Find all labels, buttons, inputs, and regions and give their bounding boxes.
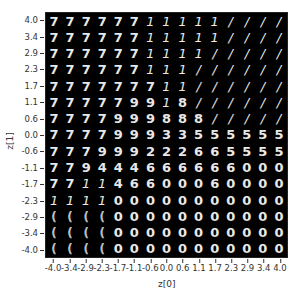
digit-cell: 9	[94, 143, 110, 159]
digit-cell: /	[239, 94, 255, 110]
digit-cell: 0	[239, 224, 255, 240]
y-tick-label: -1.1	[0, 164, 38, 173]
x-tick-label: -4.0	[45, 264, 62, 273]
digit-cell: /	[223, 46, 239, 62]
digit-cell: 4	[110, 176, 126, 192]
digit-cell: 0	[158, 224, 174, 240]
digit-cell: 1	[175, 46, 191, 62]
x-tick-label: -1.7	[110, 264, 127, 273]
digit-cell: 9	[78, 159, 94, 175]
digit-cell: 0	[255, 192, 271, 208]
digit-cell: /	[255, 94, 271, 110]
digit-cell: 0	[110, 224, 126, 240]
digit-cell: 7	[62, 127, 78, 143]
digit-cell: 7	[126, 62, 142, 78]
digit-cell: 0	[158, 176, 174, 192]
digit-cell: 9	[110, 127, 126, 143]
digit-cell: 1	[158, 62, 174, 78]
digit-cell: /	[255, 46, 271, 62]
digit-cell: /	[223, 13, 239, 29]
digit-cell: (	[62, 241, 78, 257]
digit-cell: 1	[158, 13, 174, 29]
digit-cell: 0	[126, 241, 142, 257]
y-tick-label: -3.4	[0, 229, 38, 238]
digit-cell: 1	[78, 192, 94, 208]
digit-cell: 1	[158, 46, 174, 62]
digit-cell: 1	[142, 62, 158, 78]
digit-cell: 8	[191, 111, 207, 127]
digit-cell: 9	[142, 111, 158, 127]
x-tick-label: -2.9	[77, 264, 94, 273]
digit-cell: 0	[271, 192, 287, 208]
digit-cell: 3	[175, 127, 191, 143]
digit-cell: /	[271, 46, 287, 62]
x-tick-label: -3.4	[61, 264, 78, 273]
digit-cell: 1	[142, 46, 158, 62]
digit-cell: 8	[175, 94, 191, 110]
digit-cell: 2	[142, 143, 158, 159]
digit-cell: 7	[62, 176, 78, 192]
digit-cell: 0	[126, 192, 142, 208]
digit-cell: 7	[110, 62, 126, 78]
digit-cell: 0	[207, 224, 223, 240]
digit-cell: /	[239, 46, 255, 62]
digit-cell: 7	[78, 29, 94, 45]
digit-cell: 0	[126, 224, 142, 240]
digit-cell: 7	[46, 78, 62, 94]
digit-cell: 1	[207, 13, 223, 29]
digit-cell: /	[223, 111, 239, 127]
digit-cell: 1	[46, 192, 62, 208]
digit-cell: 7	[110, 29, 126, 45]
digit-cell: 0	[142, 208, 158, 224]
digit-cell: /	[207, 94, 223, 110]
digit-cell: 0	[142, 224, 158, 240]
digit-cell: 7	[126, 13, 142, 29]
digit-cell: /	[223, 94, 239, 110]
digit-cell: /	[223, 62, 239, 78]
digit-cell: 7	[62, 62, 78, 78]
y-tick-label: -2.9	[0, 213, 38, 222]
digit-cell: 7	[46, 13, 62, 29]
digit-cell: /	[271, 13, 287, 29]
digit-cell: 1	[94, 176, 110, 192]
digit-cell: 0	[191, 224, 207, 240]
digit-cell: 0	[271, 224, 287, 240]
digit-cell: /	[255, 13, 271, 29]
digit-cell: 7	[110, 46, 126, 62]
digit-cell: 5	[271, 143, 287, 159]
x-tick-label: 0.0	[160, 264, 174, 273]
y-tick-label: -2.3	[0, 197, 38, 206]
digit-cell: 9	[110, 143, 126, 159]
digit-cell: 7	[78, 46, 94, 62]
digit-cell: 0	[207, 192, 223, 208]
x-tick-label: 4.0	[273, 264, 287, 273]
y-tick-label: 0.6	[0, 115, 38, 124]
digit-cell: 4	[110, 159, 126, 175]
digit-cell: 7	[46, 94, 62, 110]
digit-cell: 1	[94, 192, 110, 208]
digit-cell: (	[94, 208, 110, 224]
digit-cell: 7	[62, 111, 78, 127]
digit-cell: 7	[62, 159, 78, 175]
digit-cell: 7	[126, 46, 142, 62]
digit-cell: 7	[62, 143, 78, 159]
digit-cell: 1	[191, 46, 207, 62]
digit-cell: 7	[78, 13, 94, 29]
digit-cell: 0	[239, 176, 255, 192]
digit-cell: 0	[142, 241, 158, 257]
digit-cell: 9	[126, 143, 142, 159]
digit-cell: 1	[142, 29, 158, 45]
digit-cell: 7	[62, 94, 78, 110]
digit-cell: 0	[110, 208, 126, 224]
digit-cell: (	[78, 224, 94, 240]
digit-cell: 0	[110, 241, 126, 257]
digit-cell: 7	[62, 46, 78, 62]
digit-cell: 5	[223, 143, 239, 159]
latent-digit-manifold: 77777711111////77777711111////7777771111…	[45, 12, 288, 258]
digit-cell: 7	[110, 13, 126, 29]
digit-cell: (	[94, 224, 110, 240]
y-tick-label: 1.7	[0, 82, 38, 91]
digit-cell: 0	[239, 208, 255, 224]
digit-cell: 5	[255, 143, 271, 159]
x-tick-label: 1.7	[208, 264, 222, 273]
